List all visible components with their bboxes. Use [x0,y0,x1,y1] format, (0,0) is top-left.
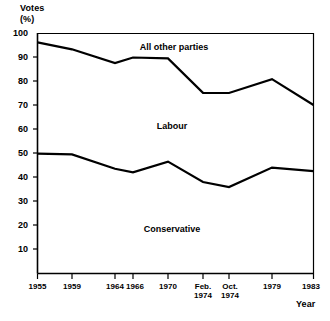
x-tick-label-1966: 1966 [126,282,144,291]
x-tick-label-1959-line1: 1959 [63,282,81,291]
x-tick-label-1979-line1: 1979 [263,282,281,291]
x-tick-label-1979: 1979 [263,282,281,291]
series-line-conservative [38,154,314,187]
x-tick-label-oct-1974: Oct. 1974 [221,282,239,300]
x-tick-label-oct-1974-line2: 1974 [221,291,239,300]
axis-frame [37,33,314,274]
x-tick-label-oct-1974-line1: Oct. [222,282,238,291]
x-tick-label-1983-line1: 1983 [302,282,320,291]
x-tick-label-1966-line1: 1966 [126,282,144,291]
x-tick-label-feb-1974: Feb. 1974 [194,282,212,300]
x-tick-label-1970: 1970 [159,282,177,291]
x-tick-label-1964-line1: 1964 [106,282,124,291]
x-tick-label-feb-1974-line1: Feb. [195,282,211,291]
x-tick-label-1964: 1964 [106,282,124,291]
x-tick-label-1983: 1983 [302,282,320,291]
x-axis-ticks [38,274,314,280]
band-label-labour: Labour [157,121,188,131]
x-tick-label-1955: 1955 [29,282,47,291]
x-tick-label-1959: 1959 [63,282,81,291]
band-label-all-other-parties: All other parties [140,42,209,52]
x-tick-label-1970-line1: 1970 [159,282,177,291]
band-label-conservative: Conservative [144,224,201,234]
x-tick-label-feb-1974-line2: 1974 [194,291,212,300]
votes-line-chart: Votes (%) Year 100 90 80 70 60 50 40 30 … [0,0,330,321]
x-tick-label-1955-line1: 1955 [29,282,47,291]
